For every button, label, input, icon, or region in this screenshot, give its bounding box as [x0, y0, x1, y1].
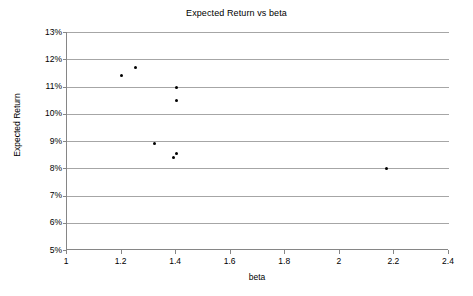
y-axis-tick-labels: 5%6%7%8%9%10%11%12%13% — [18, 32, 62, 250]
x-tick-label: 1.4 — [155, 256, 195, 266]
x-tick-label: 1.8 — [264, 256, 304, 266]
x-axis-title: beta — [66, 272, 448, 282]
scatter-chart: Expected Return vs beta Expected Return … — [0, 0, 473, 296]
y-tick-label: 6% — [24, 218, 62, 227]
gridline — [67, 87, 449, 88]
y-tick-label: 12% — [24, 55, 62, 64]
plot-area — [66, 32, 448, 250]
y-tick-label: 8% — [24, 164, 62, 173]
data-point — [175, 86, 178, 89]
data-point — [134, 66, 137, 69]
x-tick-mark — [448, 250, 449, 254]
x-tick-mark — [339, 250, 340, 254]
data-point — [120, 74, 123, 77]
gridline — [67, 32, 449, 33]
x-tick-mark — [66, 250, 67, 254]
gridline — [67, 223, 449, 224]
y-tick-label: 10% — [24, 109, 62, 118]
y-tick-mark — [63, 141, 67, 142]
x-tick-mark — [284, 250, 285, 254]
gridline — [67, 59, 449, 60]
y-tick-mark — [63, 87, 67, 88]
gridline — [67, 141, 449, 142]
y-tick-label: 13% — [24, 28, 62, 37]
x-tick-mark — [175, 250, 176, 254]
x-tick-mark — [230, 250, 231, 254]
y-tick-mark — [63, 59, 67, 60]
x-tick-mark — [393, 250, 394, 254]
x-tick-mark — [121, 250, 122, 254]
y-tick-label: 11% — [24, 82, 62, 91]
data-point — [175, 152, 178, 155]
data-point — [153, 142, 156, 145]
y-tick-mark — [63, 223, 67, 224]
y-tick-mark — [63, 114, 67, 115]
y-tick-label: 9% — [24, 137, 62, 146]
y-tick-mark — [63, 196, 67, 197]
x-tick-label: 1 — [46, 256, 86, 266]
x-axis-tick-marks — [66, 250, 449, 255]
y-tick-label: 7% — [24, 191, 62, 200]
x-tick-label: 1.6 — [210, 256, 250, 266]
data-point — [172, 156, 175, 159]
data-point — [175, 99, 178, 102]
y-tick-label: 5% — [24, 246, 62, 255]
x-tick-label: 2.2 — [373, 256, 413, 266]
x-tick-label: 2 — [319, 256, 359, 266]
data-point — [385, 167, 388, 170]
x-tick-label: 2.4 — [428, 256, 468, 266]
y-tick-mark — [63, 168, 67, 169]
x-tick-label: 1.2 — [101, 256, 141, 266]
x-axis-tick-labels: 11.21.41.61.822.22.4 — [0, 256, 473, 268]
gridline — [67, 114, 449, 115]
y-tick-mark — [63, 32, 67, 33]
gridline — [67, 168, 449, 169]
chart-title: Expected Return vs beta — [0, 8, 473, 18]
gridline — [67, 196, 449, 197]
